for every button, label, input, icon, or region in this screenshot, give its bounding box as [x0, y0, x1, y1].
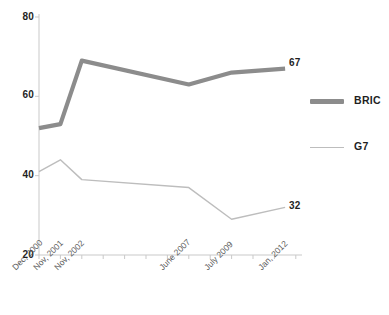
legend-label-bric: BRIC — [354, 94, 381, 106]
legend-item-g7: G7 — [310, 138, 388, 184]
y-tick-label-80: 80 — [12, 11, 34, 22]
y-tick-label-40: 40 — [12, 169, 34, 180]
series-line-bric — [39, 61, 285, 128]
legend-item-bric: BRIC — [310, 92, 388, 138]
legend-swatch-bric — [310, 99, 344, 104]
chart-legend: BRIC G7 — [310, 92, 388, 184]
y-tick-label-60: 60 — [12, 89, 34, 100]
value-label-g7-32: 32 — [289, 200, 301, 211]
line-chart: 80 60 40 20 Dec, 2000 Nov, 2001 Nov, 200… — [0, 0, 389, 315]
legend-swatch-g7 — [310, 147, 344, 148]
value-label-bric-67: 67 — [289, 57, 301, 68]
legend-label-g7: G7 — [354, 140, 369, 152]
y-axis-ticks — [35, 17, 39, 255]
series-line-g7 — [39, 160, 285, 220]
